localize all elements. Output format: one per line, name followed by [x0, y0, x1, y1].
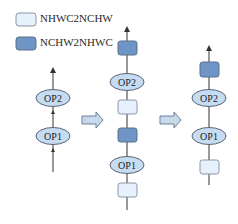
- transform-arrow-icon: [82, 112, 103, 128]
- diagram-canvas: NHWC2NCHW NCHW2NHWC OP2 OP1 OP2: [0, 0, 238, 224]
- op2-label: OP2: [200, 93, 218, 104]
- op1-label: OP1: [44, 131, 62, 142]
- legend-swatch-dark: [16, 37, 36, 50]
- column-original: OP2 OP1: [36, 70, 70, 172]
- op1-label: OP1: [118, 160, 136, 171]
- op2-label: OP2: [118, 77, 136, 88]
- op1-label: OP1: [200, 131, 218, 142]
- nchw2nhwc-box: [118, 41, 137, 55]
- legend-swatch-light: [16, 13, 36, 26]
- nchw2nhwc-box: [200, 62, 219, 77]
- legend-label-nchw2nhwc: NCHW2NHWC: [40, 36, 113, 48]
- nhwc2nchw-box: [200, 160, 219, 174]
- arrowhead-icon: [51, 148, 55, 152]
- transform-arrow-icon: [160, 112, 181, 128]
- legend-label-nhwc2nchw: NHWC2NCHW: [40, 12, 113, 24]
- op2-label: OP2: [44, 93, 62, 104]
- column-inserted: OP2 OP1: [110, 29, 144, 210]
- arrowhead-icon: [51, 110, 55, 114]
- nhwc2nchw-box: [118, 100, 137, 114]
- column-optimized: OP2 OP1: [192, 48, 226, 185]
- diagram-svg: OP2 OP1 OP2 OP1 OP2: [0, 0, 238, 224]
- nhwc2nchw-box: [118, 183, 137, 197]
- nchw2nhwc-box: [118, 128, 137, 142]
